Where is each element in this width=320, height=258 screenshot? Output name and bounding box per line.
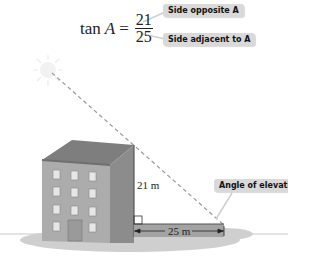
- callout-side-opposite: Side opposite A: [163, 4, 244, 17]
- formula-function: tan: [80, 19, 101, 39]
- sun-icon: [33, 55, 63, 86]
- formula-numerator: 21: [135, 12, 153, 29]
- tangent-formula: tan A = 21 25: [80, 12, 153, 45]
- formula-angle: A: [105, 19, 115, 39]
- formula-fraction: 21 25: [135, 12, 153, 45]
- right-angle-marker: [134, 216, 142, 224]
- callout-angle-of-elevation: Angle of elevation: [214, 179, 288, 192]
- height-label: 21 m: [137, 179, 159, 191]
- base-label: 25 m: [166, 225, 192, 237]
- formula-denominator: 25: [136, 29, 152, 45]
- formula-equals: =: [119, 19, 129, 39]
- leader-angle: [216, 193, 232, 219]
- callout-side-adjacent: Side adjacent to A: [163, 33, 255, 46]
- building: [42, 140, 134, 243]
- building-door: [68, 220, 82, 241]
